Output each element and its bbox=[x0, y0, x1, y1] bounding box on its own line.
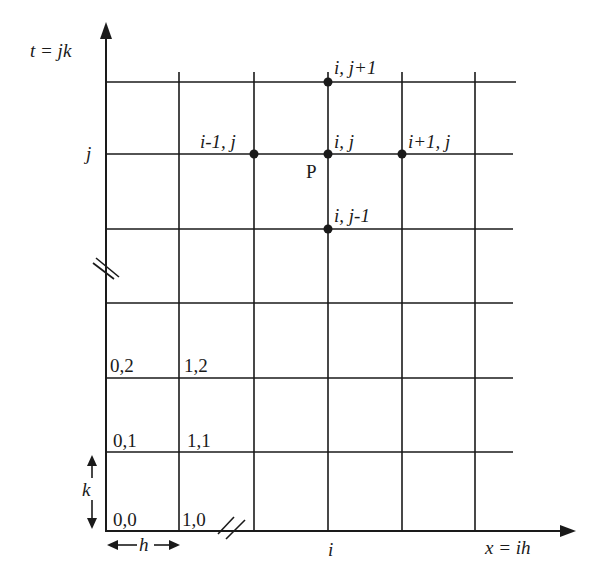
h-label: h bbox=[139, 534, 149, 555]
label-0-0: 0,0 bbox=[113, 509, 137, 530]
break-marks bbox=[93, 258, 245, 539]
node-label-right: i+1, j bbox=[408, 131, 450, 152]
label-1-1: 1,1 bbox=[187, 430, 211, 451]
node-top bbox=[324, 78, 333, 87]
label-0-2: 0,2 bbox=[110, 355, 134, 376]
t-axis-label: t = jk bbox=[30, 40, 72, 61]
node-label-top: i, j+1 bbox=[334, 57, 376, 78]
node-bottom bbox=[324, 225, 333, 234]
node-left bbox=[250, 150, 259, 159]
node-center bbox=[324, 150, 333, 159]
t-axis-arrow-icon bbox=[100, 22, 112, 39]
k-label: k bbox=[82, 479, 91, 500]
node-right bbox=[398, 150, 407, 159]
node-label-left: i-1, j bbox=[200, 131, 236, 152]
label-0-1: 0,1 bbox=[113, 430, 137, 451]
mesh-diagram: t = jk x = ih j i i, j+1 i-1, j i, j i+1… bbox=[0, 0, 600, 585]
j-tick-label: j bbox=[83, 143, 91, 164]
arrow-up-icon bbox=[87, 455, 97, 466]
label-1-2: 1,2 bbox=[184, 355, 208, 376]
node-label-bottom: i, j-1 bbox=[334, 205, 370, 226]
x-axis-label: x = ih bbox=[484, 537, 531, 558]
i-tick-label: i bbox=[328, 539, 333, 560]
x-axis-arrow-icon bbox=[560, 525, 576, 537]
axes bbox=[100, 22, 576, 537]
node-label-center: i, j bbox=[334, 131, 354, 152]
arrow-down-icon bbox=[87, 518, 97, 529]
horizontal-grid-lines bbox=[106, 82, 516, 452]
arrow-left-icon bbox=[107, 540, 118, 550]
label-1-0: 1,0 bbox=[182, 509, 206, 530]
point-p-label: P bbox=[306, 161, 317, 182]
arrow-right-icon bbox=[169, 540, 180, 550]
